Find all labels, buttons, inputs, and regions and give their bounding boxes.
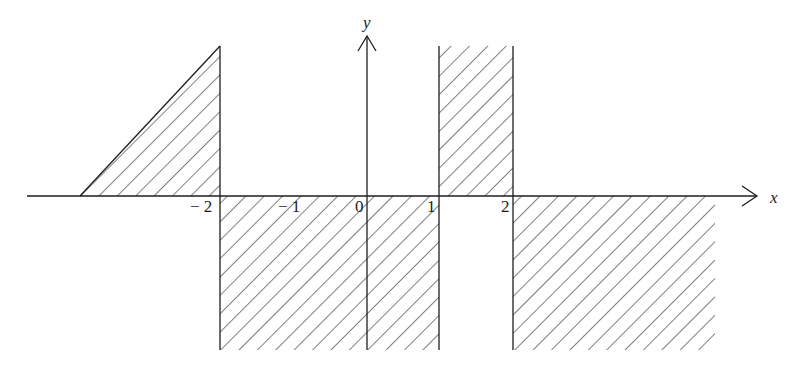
hatched-region-below-beyond-2 <box>513 196 715 350</box>
hatched-region-above-1-to-2 <box>439 46 513 196</box>
region-diagram: x y − 2 − 1 0 1 2 <box>0 0 796 374</box>
y-axis-label: y <box>361 13 371 32</box>
tick-label-zero: 0 <box>355 197 364 216</box>
tick-label-neg1: − 1 <box>278 197 300 216</box>
tick-label-neg2: − 2 <box>190 197 212 216</box>
hatched-triangle-left <box>80 46 220 196</box>
hatched-region-below-neg2-to-1 <box>220 196 439 350</box>
x-axis-label: x <box>769 188 778 207</box>
tick-label-two: 2 <box>501 197 510 216</box>
tick-label-one: 1 <box>427 197 436 216</box>
